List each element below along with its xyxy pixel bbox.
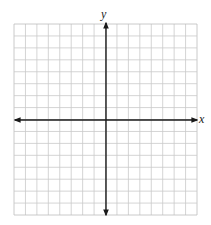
coordinate-grid: [0, 0, 211, 225]
x-axis-label: x: [199, 113, 204, 125]
coordinate-plane-figure: y x: [0, 0, 211, 225]
y-axis-label: y: [101, 8, 106, 20]
